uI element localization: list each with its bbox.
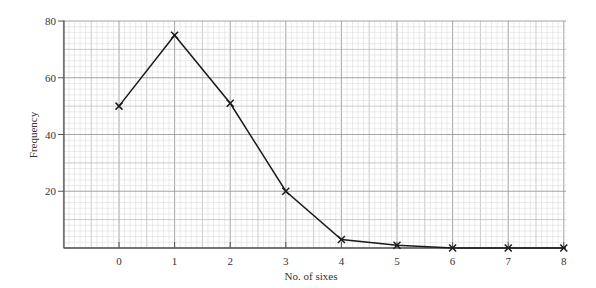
x-tick-label: 2 (227, 255, 233, 267)
x-tick-label: 0 (116, 255, 122, 267)
x-tick-label: 1 (172, 255, 178, 267)
x-tick-label: 6 (450, 255, 456, 267)
x-axis-label: No. of sixes (285, 270, 338, 282)
tick-labels: 20406080012345678 (45, 15, 567, 267)
graph-paper-grid (63, 21, 566, 248)
y-tick-label: 40 (45, 129, 57, 141)
y-tick-label: 60 (45, 72, 57, 84)
y-axis-label: Frequency (27, 111, 39, 158)
y-tick-label: 20 (45, 185, 57, 197)
x-tick-label: 4 (339, 255, 345, 267)
x-tick-label: 7 (505, 255, 511, 267)
y-tick-label: 80 (45, 15, 57, 27)
x-tick-label: 5 (394, 255, 400, 267)
frequency-line-chart: 20406080012345678 No. of sixes Frequency (0, 0, 596, 288)
x-tick-label: 3 (283, 255, 289, 267)
x-tick-label: 8 (561, 255, 567, 267)
